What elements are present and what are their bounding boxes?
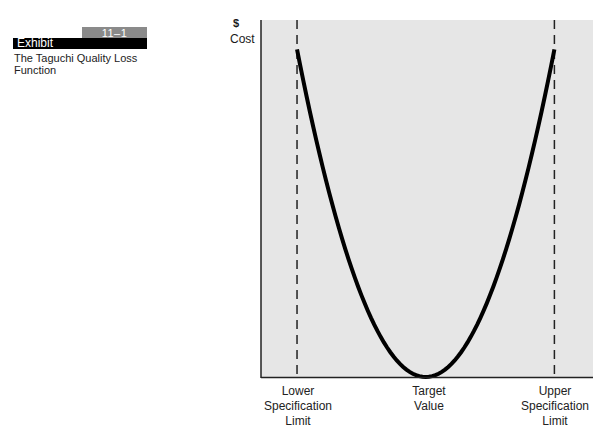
x-label-target-value: Target Value	[374, 384, 484, 414]
loss-function-chart	[0, 0, 615, 445]
x-label-lower-spec-limit: Lower Specification Limit	[243, 384, 353, 429]
x-label-upper-spec-limit: Upper Specification Limit	[500, 384, 610, 429]
plot-area	[261, 20, 593, 377]
